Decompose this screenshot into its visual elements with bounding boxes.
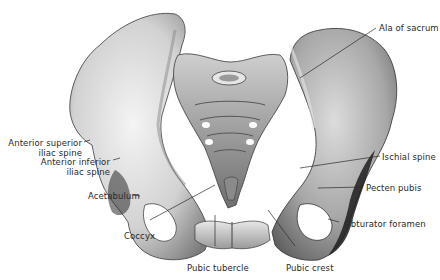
label-ala-of-sacrum: Ala of sacrum: [379, 23, 439, 33]
label-aiis-line1: Anterior inferior: [41, 157, 110, 167]
sacrum: [174, 54, 288, 208]
pubic-symphysis: [195, 221, 270, 249]
label-asis-line1: Anterior superior: [8, 138, 82, 148]
label-aiis-line2: iliac spine: [41, 167, 110, 177]
label-pubic-crest: Pubic crest: [286, 263, 334, 273]
label-acetabulum: Acetabulum: [88, 191, 140, 201]
label-anterior-inferior-iliac-spine: Anterior inferior iliac spine: [41, 157, 110, 177]
label-obturator-foramen: Obturator foramen: [344, 219, 426, 229]
label-pubic-tubercle: Pubic tubercle: [187, 263, 249, 273]
label-anterior-superior-iliac-spine: Anterior superior iliac spine: [8, 138, 82, 158]
left-hip-bone: [70, 13, 210, 259]
label-coccyx: Coccyx: [124, 231, 155, 241]
label-pecten-pubis: Pecten pubis: [366, 183, 422, 193]
label-ischial-spine: Ischial spine: [382, 152, 436, 162]
